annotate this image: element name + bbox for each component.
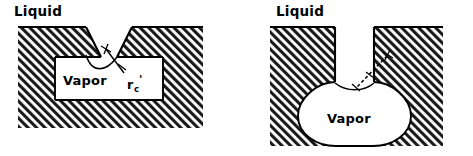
label-radius-prime-left: ': [139, 73, 143, 86]
label-vapor-left: Vapor: [63, 73, 107, 88]
label-liquid-left: Liquid: [14, 3, 62, 19]
label-liquid-right: Liquid: [276, 3, 324, 19]
label-vapor-right: Vapor: [327, 111, 371, 126]
solid-substrate-left: [14, 23, 208, 133]
label-radius-left: r c ': [127, 73, 143, 94]
label-radius-symbol-left: r: [127, 77, 134, 92]
diagram-panel-left: Liquid Vapor r c ': [0, 0, 236, 156]
diagram-panel-right: Liquid Vapor: [236, 0, 473, 156]
figure-root: Liquid Vapor r c ': [0, 0, 473, 156]
solid-substrate-right: [266, 23, 448, 151]
